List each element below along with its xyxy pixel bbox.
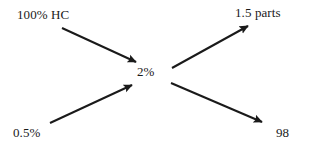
node-label-center: 2% <box>137 65 155 79</box>
arrow-input-top-to-center <box>62 28 136 62</box>
node-label-output-bottom: 98 <box>276 126 289 140</box>
node-label-output-top: 1.5 parts <box>235 6 281 20</box>
node-label-input-bottom: 0.5% <box>13 126 40 140</box>
flow-diagram-canvas: 100% HC 0.5% 2% 1.5 parts 98 <box>0 0 311 155</box>
arrow-center-to-output-bottom <box>171 83 262 122</box>
node-label-input-top: 100% HC <box>17 8 69 22</box>
flow-arrows-layer <box>0 0 311 155</box>
arrow-input-bottom-to-center <box>50 85 132 123</box>
arrow-center-to-output-top <box>172 26 248 68</box>
